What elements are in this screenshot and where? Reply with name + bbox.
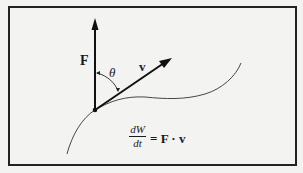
equation-rhs: = F · v	[150, 131, 185, 147]
angle-label: θ	[109, 65, 115, 81]
force-label: F	[80, 53, 89, 69]
equation-numerator: dW	[130, 124, 145, 135]
equation-fraction: dW dt	[129, 124, 146, 149]
equation-denominator: dt	[133, 138, 142, 149]
velocity-label: v	[139, 59, 146, 75]
particle-point	[93, 108, 98, 113]
diagram-canvas	[0, 0, 303, 173]
